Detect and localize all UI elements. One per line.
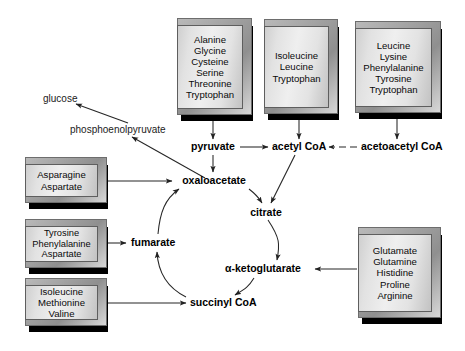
aminoacid-label: Serine: [196, 67, 224, 78]
aminoacid-label: Tryptophan: [186, 89, 234, 100]
aminoacid-label: Tryptophan: [272, 73, 320, 84]
arrow-akg-to-succinylcoa: [235, 278, 254, 295]
box-face: Leucine Lysine Phenylalanine Tyrosine Tr…: [355, 28, 432, 107]
aminoacid-label: Aspartate: [42, 249, 82, 260]
aminoacid-label: Histidine: [377, 267, 414, 278]
box-face: Isoleucine Leucine Tryptophan: [264, 26, 329, 108]
aminoacid-label: Phenylalanine: [32, 239, 90, 250]
aminoacid-label: Aspartate: [41, 181, 82, 192]
aminoacid-group-box-to-alpha-ketoglutarate[interactable]: Glutamate Glutamine Histidine Proline Ar…: [358, 227, 441, 318]
metabolite-succinyl-coa: succinyl CoA: [190, 297, 257, 308]
aminoacid-label: Glutamate: [373, 245, 417, 256]
box-face: Tyrosine Phenylalanine Aspartate: [25, 226, 98, 262]
aminoacid-label: Methionine: [38, 297, 85, 308]
metabolite-acetoacetyl-coa: acetoacetyl CoA: [361, 141, 443, 152]
aminoacid-label: Glycine: [194, 45, 226, 56]
aminoacid-group-box-to-acetoacetyl-coa[interactable]: Leucine Lysine Phenylalanine Tyrosine Tr…: [355, 21, 441, 113]
aminoacid-group-box-to-pyruvate[interactable]: Alanine Glycine Cysteine Serine Threonin…: [177, 18, 252, 115]
aminoacid-label: Glutamine: [373, 256, 417, 267]
box-face: Glutamate Glutamine Histidine Proline Ar…: [358, 234, 432, 312]
box-face: Asparagine Aspartate: [25, 164, 98, 197]
metabolite-fumarate: fumarate: [131, 237, 175, 248]
metabolite-citrate: citrate: [250, 207, 282, 218]
metabolite-alpha-ketoglutarate: α-ketoglutarate: [225, 263, 301, 274]
aminoacid-label: Phenylalanine: [363, 62, 423, 73]
metabolite-glucose: glucose: [43, 94, 77, 104]
aminoacid-label: Proline: [380, 279, 410, 290]
box-face: Alanine Glycine Cysteine Serine Threonin…: [177, 25, 243, 109]
aminoacid-label: Tyrosine: [375, 73, 411, 84]
arrow-acetylcoa-to-citrate: [271, 155, 295, 203]
metabolite-pyruvate: pyruvate: [191, 141, 235, 152]
aminoacid-group-box-to-acetyl-coa[interactable]: Isoleucine Leucine Tryptophan: [264, 19, 338, 114]
aminoacid-label: Tryptophan: [369, 84, 417, 95]
box-face: Isoleucine Methionine Valine: [25, 285, 98, 320]
aminoacid-label: Leucine: [280, 61, 314, 72]
aminoacid-label: Leucine: [377, 40, 411, 51]
arrow-succinylcoa-to-fumarate: [157, 252, 186, 297]
aminoacid-label: Asparagine: [37, 169, 86, 180]
arrow-fumarate-to-oxaloacetate: [158, 189, 179, 234]
metabolite-oxaloacetate: oxaloacetate: [182, 175, 246, 186]
aminoacid-label: Arginine: [377, 290, 412, 301]
aminoacid-group-box-to-succinyl-coa[interactable]: Isoleucine Methionine Valine: [25, 278, 107, 326]
aminoacid-group-box-to-fumarate[interactable]: Tyrosine Phenylalanine Aspartate: [25, 219, 107, 268]
aminoacid-label: Isoleucine: [275, 50, 318, 61]
arrow-citrate-to-akg: [268, 220, 279, 260]
aminoacid-label: Valine: [49, 308, 75, 319]
aminoacid-label: Threonine: [188, 78, 231, 89]
aminoacid-label: Isoleucine: [40, 286, 83, 297]
aminoacid-label: Tyrosine: [44, 228, 79, 239]
metabolite-acetyl-coa: acetyl CoA: [272, 141, 326, 152]
metabolite-phosphoenolpyruvate: phosphoenolpyruvate: [70, 125, 166, 135]
aminoacid-group-box-to-oxaloacetate[interactable]: Asparagine Aspartate: [25, 157, 107, 203]
aminoacid-label: Alanine: [194, 34, 226, 45]
arrow-oxaloacetate-to-citrate: [249, 189, 262, 203]
diagram-canvas: Alanine Glycine Cysteine Serine Threonin…: [0, 0, 465, 351]
arrow-pep-to-glucose: [76, 104, 128, 123]
aminoacid-label: Cysteine: [191, 56, 228, 67]
aminoacid-label: Lysine: [380, 51, 407, 62]
